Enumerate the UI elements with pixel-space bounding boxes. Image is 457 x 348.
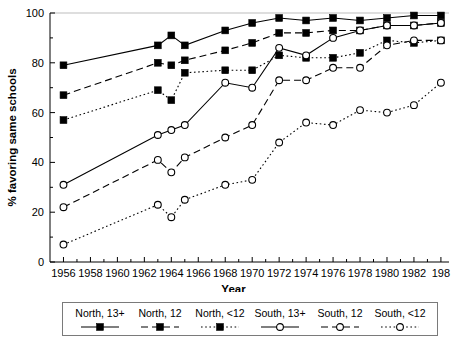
- y-axis-tick-label: 80: [32, 57, 44, 69]
- data-point-filled-square: [154, 59, 161, 66]
- data-point-filled-square: [222, 27, 229, 34]
- data-point-open-circle: [303, 77, 310, 84]
- legend-marker-filled-square: [217, 323, 224, 330]
- data-point-open-circle: [438, 79, 445, 86]
- x-axis-tick-label: 1972: [267, 267, 291, 279]
- data-point-open-circle: [60, 181, 67, 188]
- data-point-filled-square: [168, 32, 175, 39]
- data-point-filled-square: [276, 52, 283, 59]
- legend-label: North, <12: [195, 307, 244, 320]
- data-point-open-circle: [438, 37, 445, 44]
- data-point-filled-square: [330, 54, 337, 61]
- chart-series: [60, 37, 444, 211]
- data-point-open-circle: [384, 22, 391, 29]
- legend-marker-filled-square: [97, 323, 104, 330]
- legend-swatch: [73, 322, 127, 332]
- x-axis-tick-label: 1970: [240, 267, 264, 279]
- data-point-filled-square: [60, 62, 67, 69]
- legend-label: North, 13+: [75, 307, 124, 320]
- data-point-open-circle: [357, 64, 364, 71]
- data-point-open-circle: [168, 127, 175, 134]
- legend-label: South, <12: [374, 307, 425, 320]
- data-point-filled-square: [303, 30, 310, 37]
- data-point-filled-square: [303, 17, 310, 24]
- data-point-filled-square: [276, 30, 283, 37]
- data-point-open-circle: [181, 154, 188, 161]
- data-point-filled-square: [249, 39, 256, 46]
- data-point-filled-square: [357, 17, 364, 24]
- y-axis-tick-label: 20: [32, 206, 44, 218]
- data-point-open-circle: [276, 44, 283, 51]
- legend-marker-open-circle: [337, 323, 344, 330]
- data-point-filled-square: [181, 57, 188, 64]
- data-point-open-circle: [276, 139, 283, 146]
- x-axis-tick-label: 1956: [51, 267, 75, 279]
- chart-legend: North, 13+North, 12North, <12South, 13+S…: [62, 302, 438, 336]
- legend-swatch: [373, 322, 427, 332]
- data-point-open-circle: [60, 241, 67, 248]
- chart-series: [60, 79, 444, 248]
- data-point-open-circle: [384, 109, 391, 116]
- x-axis-tick-label: 1982: [402, 267, 426, 279]
- x-axis-tick-label: 198: [432, 267, 450, 279]
- data-point-filled-square: [60, 117, 67, 124]
- legend-label: South, 13+: [254, 307, 305, 320]
- data-point-open-circle: [330, 35, 337, 42]
- legend-entry-2[interactable]: North, 12: [130, 307, 190, 332]
- data-point-open-circle: [154, 201, 161, 208]
- legend-label: North, 12: [138, 307, 181, 320]
- data-point-filled-square: [60, 92, 67, 99]
- legend-entry-1[interactable]: North, 13+: [70, 307, 130, 332]
- series-line: [63, 83, 440, 245]
- data-point-open-circle: [60, 204, 67, 211]
- y-axis-title: % favoring same schools: [6, 68, 18, 206]
- data-point-filled-square: [330, 27, 337, 34]
- y-axis-tick-label: 0: [38, 256, 44, 268]
- line-chart: 0204060801001956195819601962196419661968…: [0, 0, 457, 292]
- data-point-filled-square: [249, 67, 256, 74]
- data-point-open-circle: [411, 37, 418, 44]
- data-point-filled-square: [357, 49, 364, 56]
- data-point-filled-square: [384, 15, 391, 22]
- data-point-open-circle: [222, 134, 229, 141]
- y-axis-tick-label: 60: [32, 107, 44, 119]
- legend-entry-6[interactable]: South, <12: [370, 307, 430, 332]
- data-point-open-circle: [249, 176, 256, 183]
- x-axis-tick-label: 1976: [321, 267, 345, 279]
- data-point-filled-square: [181, 69, 188, 76]
- data-point-filled-square: [438, 12, 445, 19]
- series-line: [63, 40, 440, 120]
- data-point-filled-square: [222, 67, 229, 74]
- data-point-open-circle: [222, 79, 229, 86]
- legend-entry-5[interactable]: South, 12: [310, 307, 370, 332]
- data-point-open-circle: [249, 84, 256, 91]
- legend-entry-3[interactable]: North, <12: [190, 307, 250, 332]
- data-point-open-circle: [411, 22, 418, 29]
- data-point-filled-square: [411, 12, 418, 19]
- x-axis-title: Year: [221, 283, 246, 292]
- data-point-open-circle: [330, 64, 337, 71]
- data-point-open-circle: [330, 122, 337, 129]
- data-point-open-circle: [276, 77, 283, 84]
- data-point-filled-square: [330, 15, 337, 22]
- legend-swatch: [253, 322, 307, 332]
- legend-swatch: [313, 322, 367, 332]
- x-axis-tick-label: 1980: [375, 267, 399, 279]
- legend-entry-4[interactable]: South, 13+: [250, 307, 310, 332]
- data-point-open-circle: [154, 132, 161, 139]
- data-point-open-circle: [249, 122, 256, 129]
- data-point-open-circle: [168, 214, 175, 221]
- data-point-open-circle: [411, 102, 418, 109]
- chart-page: 0204060801001956195819601962196419661968…: [0, 0, 457, 348]
- data-point-open-circle: [303, 119, 310, 126]
- data-point-filled-square: [181, 42, 188, 49]
- data-point-open-circle: [384, 42, 391, 49]
- data-point-filled-square: [222, 47, 229, 54]
- x-axis-tick-label: 1978: [348, 267, 372, 279]
- series-layer: [60, 12, 444, 248]
- legend-swatch: [193, 322, 247, 332]
- y-axis-tick-label: 100: [26, 7, 44, 19]
- data-point-filled-square: [154, 87, 161, 94]
- data-point-open-circle: [154, 157, 161, 164]
- legend-marker-filled-square: [157, 323, 164, 330]
